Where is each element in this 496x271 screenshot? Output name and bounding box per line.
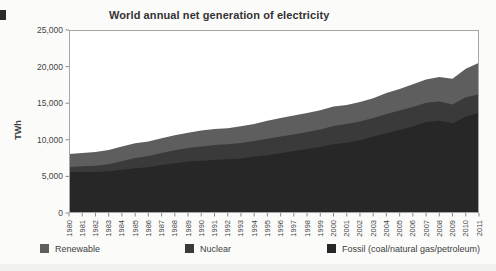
x-tick-label: 1980 (65, 220, 74, 237)
x-tick-label: 1981 (78, 220, 87, 237)
legend-swatch-nuclear (185, 244, 194, 253)
electricity-generation-figure: World annual net generation of electrici… (0, 0, 496, 271)
legend-item-renewable: Renewable (40, 243, 100, 254)
x-tick-label: 1993 (236, 220, 245, 237)
x-tick-label: 2002 (355, 220, 364, 237)
x-tick-label: 1990 (197, 220, 206, 237)
x-tick-label: 1992 (223, 220, 232, 237)
legend-swatch-renewable (40, 244, 49, 253)
x-tick-label: 2004 (382, 220, 391, 237)
y-tick-label: 5,000 (42, 171, 64, 181)
x-tick-label: 1982 (91, 220, 100, 237)
x-tick-label: 1996 (276, 220, 285, 237)
x-tick-label: 1994 (250, 220, 259, 237)
x-tick-label: 1995 (263, 220, 272, 237)
x-tick-label: 2011 (475, 220, 484, 236)
y-tick-label: 0 (58, 208, 63, 218)
y-tick-label: 10,000 (37, 135, 63, 145)
x-tick-label: 1989 (184, 220, 193, 237)
x-tick-label: 1983 (104, 220, 113, 237)
legend-label-fossil: Fossil (coal/natural gas/petroleum) (342, 244, 480, 254)
plot-area: 05,00010,00015,00020,00025,0001980198119… (0, 0, 496, 271)
x-tick-label: 2001 (342, 220, 351, 237)
legend-item-fossil: Fossil (coal/natural gas/petroleum) (327, 243, 480, 254)
x-tick-label: 1991 (210, 220, 219, 237)
x-tick-label: 1998 (303, 220, 312, 237)
x-tick-label: 2006 (408, 220, 417, 237)
x-tick-label: 2007 (422, 220, 431, 237)
x-tick-label: 2008 (435, 220, 444, 237)
legend: Renewable Nuclear Fossil (coal/natural g… (0, 243, 496, 255)
legend-label-renewable: Renewable (55, 244, 100, 254)
legend-label-nuclear: Nuclear (200, 244, 231, 254)
x-tick-label: 1985 (131, 220, 140, 237)
x-tick-label: 2003 (369, 220, 378, 237)
legend-item-nuclear: Nuclear (185, 243, 231, 254)
x-tick-label: 2000 (329, 220, 338, 237)
y-tick-label: 20,000 (37, 62, 63, 72)
x-tick-label: 1987 (157, 220, 166, 237)
legend-swatch-fossil (327, 244, 336, 253)
x-tick-label: 1984 (117, 220, 126, 237)
x-tick-label: 1999 (316, 220, 325, 237)
x-tick-label: 2010 (461, 220, 470, 237)
y-tick-label: 15,000 (37, 98, 63, 108)
x-tick-label: 1997 (289, 220, 298, 237)
y-tick-label: 25,000 (37, 25, 63, 35)
x-tick-label: 2005 (395, 220, 404, 237)
x-tick-label: 1986 (144, 220, 153, 237)
x-tick-label: 2009 (448, 220, 457, 237)
x-tick-label: 1988 (170, 220, 179, 237)
